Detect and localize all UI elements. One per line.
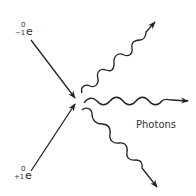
photons-label: Photons [136, 119, 176, 130]
photon-middle [84, 97, 188, 105]
positron-path [31, 104, 75, 171]
electron-symbol: e [26, 26, 33, 37]
positron-label: 0 +1 e [13, 166, 43, 188]
positron-symbol: e [25, 170, 32, 181]
electron-charge: −1 [15, 30, 25, 37]
electron-path [31, 40, 75, 98]
electron-label: 0 −1 e [14, 22, 44, 44]
electron-mass-number: 0 [21, 22, 25, 29]
photon-upper [82, 22, 155, 93]
positron-charge: +1 [14, 174, 24, 181]
